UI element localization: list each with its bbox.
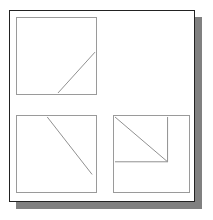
- bottom-right-square-lines: [114, 116, 189, 192]
- bottom-left-square-lines: [17, 116, 96, 192]
- bottom-left-square: [16, 115, 97, 193]
- descending-diagonal-line: [47, 117, 92, 174]
- figure-canvas: [0, 0, 213, 220]
- top-left-square-lines: [17, 18, 96, 94]
- outer-frame: [9, 10, 195, 202]
- bottom-right-square: [113, 115, 190, 193]
- descending-diagonal-line: [115, 117, 168, 162]
- ascending-diagonal-line: [58, 52, 95, 93]
- top-left-square: [16, 17, 97, 95]
